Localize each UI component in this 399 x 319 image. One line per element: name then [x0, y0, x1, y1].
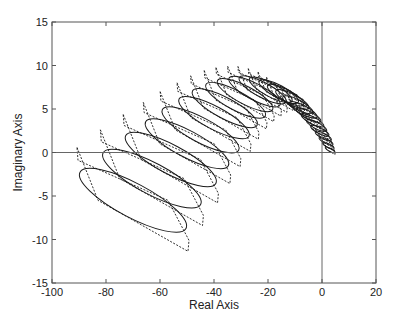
uncertainty-polygon — [100, 130, 203, 226]
y-tick-label: 10 — [36, 60, 48, 72]
x-tick-label: 20 — [370, 286, 382, 298]
uncertainty-polygon — [123, 114, 218, 202]
uncertainty-ellipse — [72, 157, 194, 243]
y-axis-label: Imaginary Axis — [11, 113, 25, 191]
uncertainty-polygon — [143, 102, 230, 183]
uncertainty-ellipse — [96, 139, 208, 218]
uncertainty-ellipse — [139, 110, 234, 177]
x-tick-label: -20 — [260, 286, 276, 298]
y-tick-label: 5 — [42, 103, 48, 115]
x-axis-label: Real Axis — [189, 298, 239, 312]
y-tick-label: -10 — [32, 234, 48, 246]
x-tick-label: -80 — [98, 286, 114, 298]
y-tick-label: -5 — [38, 190, 48, 202]
y-tick-label: 15 — [36, 16, 48, 28]
root-locus-chart: -100-80-60-40-20020 -15-10-5051015 Real … — [0, 0, 399, 319]
uncertainty-ellipse — [157, 99, 245, 161]
zero-reference-lines — [52, 22, 376, 283]
x-tick-label: 0 — [319, 286, 325, 298]
x-tick-label: -60 — [152, 286, 168, 298]
y-tick-label: -15 — [32, 277, 48, 289]
plot-shapes — [72, 66, 336, 251]
x-tick-label: -40 — [206, 286, 222, 298]
uncertainty-polygon — [77, 147, 189, 251]
y-tick-label: 0 — [42, 147, 48, 159]
x-axis-ticks: -100-80-60-40-20020 — [41, 22, 382, 298]
uncertainty-polygon — [160, 92, 241, 167]
